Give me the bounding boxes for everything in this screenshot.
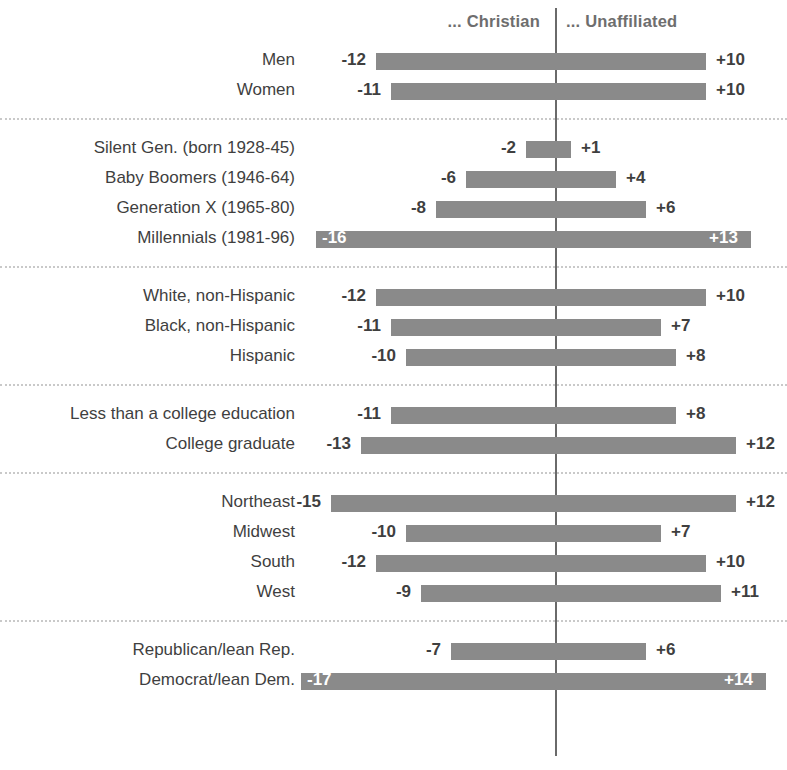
bar-unaffiliated[interactable] bbox=[556, 289, 706, 306]
value-label-unaffiliated: +12 bbox=[746, 434, 775, 454]
group-divider bbox=[0, 620, 787, 622]
row-category-label: Republican/lean Rep. bbox=[0, 640, 295, 660]
bar-christian[interactable] bbox=[436, 201, 556, 218]
diverging-bar-chart: ... Christian ... Unaffiliated Men-12+10… bbox=[0, 0, 787, 770]
row-category-label: South bbox=[0, 552, 295, 572]
value-label-unaffiliated: +7 bbox=[671, 522, 690, 542]
bar-christian[interactable] bbox=[391, 407, 556, 424]
bar-christian[interactable] bbox=[451, 643, 556, 660]
row-category-label: Black, non-Hispanic bbox=[0, 316, 295, 336]
bar-christian[interactable] bbox=[331, 495, 556, 512]
row-category-label: West bbox=[0, 582, 295, 602]
chart-row[interactable]: Millennials (1981-96)-16+13 bbox=[0, 224, 787, 254]
value-label-christian: -11 bbox=[335, 404, 381, 424]
bar-unaffiliated[interactable] bbox=[556, 585, 721, 602]
value-label-christian: -11 bbox=[335, 80, 381, 100]
value-label-unaffiliated: +13 bbox=[709, 228, 738, 248]
value-label-unaffiliated: +14 bbox=[724, 670, 753, 690]
row-category-label: Men bbox=[0, 50, 295, 70]
value-label-unaffiliated: +10 bbox=[716, 80, 745, 100]
row-category-label: Less than a college education bbox=[0, 404, 295, 424]
row-category-label: College graduate bbox=[0, 434, 295, 454]
value-label-christian: -15 bbox=[275, 492, 321, 512]
chart-row[interactable]: Less than a college education-11+8 bbox=[0, 400, 787, 430]
value-label-christian: -6 bbox=[410, 168, 456, 188]
value-label-unaffiliated: +12 bbox=[746, 492, 775, 512]
bar-unaffiliated[interactable] bbox=[556, 555, 706, 572]
chart-row[interactable]: College graduate-13+12 bbox=[0, 430, 787, 460]
bar-christian[interactable] bbox=[466, 171, 556, 188]
value-label-unaffiliated: +10 bbox=[716, 50, 745, 70]
legend-item-christian: ... Christian bbox=[448, 12, 540, 31]
bar-unaffiliated[interactable] bbox=[556, 437, 736, 454]
bar-unaffiliated[interactable] bbox=[556, 525, 661, 542]
value-label-christian: -12 bbox=[320, 286, 366, 306]
value-label-unaffiliated: +1 bbox=[581, 138, 600, 158]
bar-christian[interactable] bbox=[316, 231, 556, 248]
bar-christian[interactable] bbox=[376, 289, 556, 306]
bar-unaffiliated[interactable] bbox=[556, 83, 706, 100]
chart-row[interactable]: Democrat/lean Dem.-17+14 bbox=[0, 666, 787, 696]
chart-row[interactable]: Northeast-15+12 bbox=[0, 488, 787, 518]
bar-christian[interactable] bbox=[406, 349, 556, 366]
chart-row[interactable]: Republican/lean Rep.-7+6 bbox=[0, 636, 787, 666]
bar-christian[interactable] bbox=[391, 319, 556, 336]
bar-christian[interactable] bbox=[301, 673, 556, 690]
chart-legend: ... Christian ... Unaffiliated bbox=[0, 6, 787, 36]
bar-unaffiliated[interactable] bbox=[556, 53, 706, 70]
chart-row[interactable]: Black, non-Hispanic-11+7 bbox=[0, 312, 787, 342]
value-label-christian: -13 bbox=[305, 434, 351, 454]
bar-christian[interactable] bbox=[376, 555, 556, 572]
row-category-label: Northeast bbox=[0, 492, 295, 512]
value-label-christian: -7 bbox=[395, 640, 441, 660]
chart-row[interactable]: White, non-Hispanic-12+10 bbox=[0, 282, 787, 312]
value-label-unaffiliated: +11 bbox=[731, 582, 759, 602]
chart-row[interactable]: Midwest-10+7 bbox=[0, 518, 787, 548]
value-label-unaffiliated: +10 bbox=[716, 286, 745, 306]
value-label-christian: -8 bbox=[380, 198, 426, 218]
chart-row[interactable]: South-12+10 bbox=[0, 548, 787, 578]
chart-row[interactable]: Silent Gen. (born 1928-45)-2+1 bbox=[0, 134, 787, 164]
bar-christian[interactable] bbox=[391, 83, 556, 100]
bar-unaffiliated[interactable] bbox=[556, 349, 676, 366]
value-label-christian: -12 bbox=[320, 552, 366, 572]
legend-item-unaffiliated: ... Unaffiliated bbox=[566, 12, 677, 31]
bar-christian[interactable] bbox=[421, 585, 556, 602]
bar-unaffiliated[interactable] bbox=[556, 201, 646, 218]
value-label-unaffiliated: +4 bbox=[626, 168, 645, 188]
group-divider bbox=[0, 384, 787, 386]
value-label-unaffiliated: +6 bbox=[656, 640, 675, 660]
value-label-christian: -9 bbox=[365, 582, 411, 602]
bar-christian[interactable] bbox=[406, 525, 556, 542]
bar-unaffiliated[interactable] bbox=[556, 495, 736, 512]
chart-row[interactable]: Hispanic-10+8 bbox=[0, 342, 787, 372]
bar-unaffiliated[interactable] bbox=[556, 643, 646, 660]
bar-christian[interactable] bbox=[361, 437, 556, 454]
value-label-unaffiliated: +8 bbox=[686, 404, 705, 424]
value-label-unaffiliated: +6 bbox=[656, 198, 675, 218]
bar-unaffiliated[interactable] bbox=[556, 141, 571, 158]
bar-unaffiliated[interactable] bbox=[556, 171, 616, 188]
chart-row[interactable]: Men-12+10 bbox=[0, 46, 787, 76]
row-category-label: Women bbox=[0, 80, 295, 100]
bar-unaffiliated[interactable] bbox=[556, 319, 661, 336]
group-divider bbox=[0, 118, 787, 120]
bar-unaffiliated[interactable] bbox=[556, 407, 676, 424]
value-label-unaffiliated: +7 bbox=[671, 316, 690, 336]
value-label-christian: -10 bbox=[350, 522, 396, 542]
group-divider bbox=[0, 266, 787, 268]
chart-row[interactable]: Baby Boomers (1946-64)-6+4 bbox=[0, 164, 787, 194]
value-label-unaffiliated: +8 bbox=[686, 346, 705, 366]
group-divider bbox=[0, 472, 787, 474]
chart-row[interactable]: West-9+11 bbox=[0, 578, 787, 608]
row-category-label: Millennials (1981-96) bbox=[0, 228, 295, 248]
bar-christian[interactable] bbox=[376, 53, 556, 70]
row-category-label: Silent Gen. (born 1928-45) bbox=[0, 138, 295, 158]
chart-row[interactable]: Women-11+10 bbox=[0, 76, 787, 106]
row-category-label: Democrat/lean Dem. bbox=[0, 670, 295, 690]
row-category-label: Midwest bbox=[0, 522, 295, 542]
chart-row[interactable]: Generation X (1965-80)-8+6 bbox=[0, 194, 787, 224]
value-label-christian: -2 bbox=[470, 138, 516, 158]
row-category-label: Hispanic bbox=[0, 346, 295, 366]
bar-christian[interactable] bbox=[526, 141, 556, 158]
